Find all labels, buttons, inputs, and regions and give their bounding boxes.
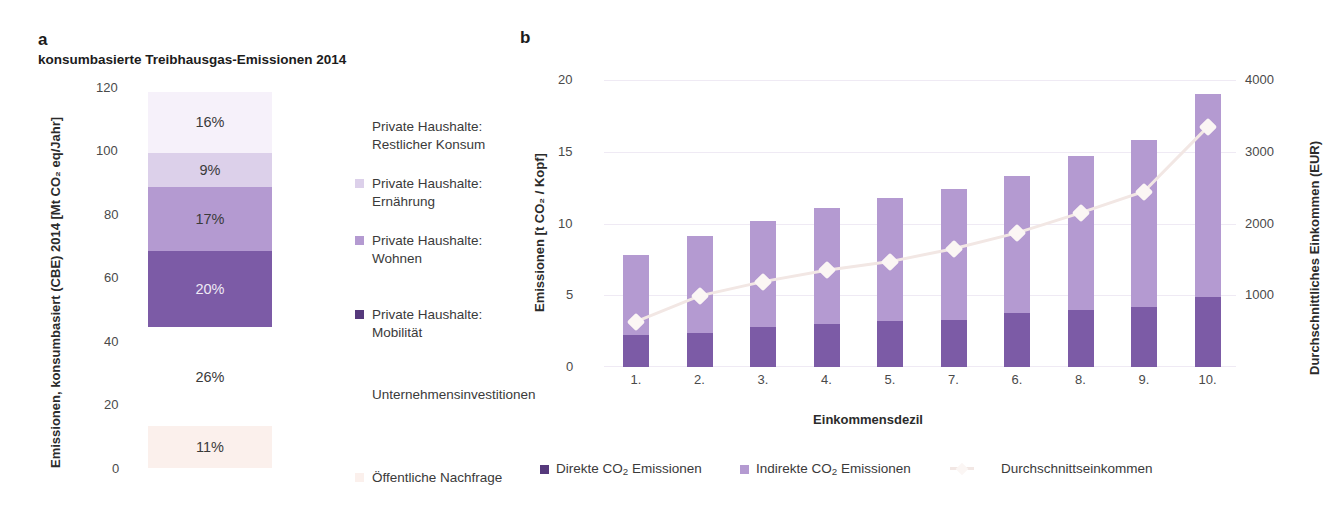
legend-item-direkte-co2[interactable]: Direkte CO2 Emissionen (540, 460, 702, 479)
legend-line-marker-icon (950, 467, 974, 470)
y-tick-a-80: 80 (104, 207, 118, 222)
y-tick-b-5: 5 (566, 287, 573, 302)
panel-a-plot-area: 16% 9% 17% 20% 26% 11% (148, 88, 272, 468)
stack-segment-oeffentliche-nachfrage: 11% (148, 426, 272, 468)
y-tick-a-100: 100 (96, 143, 118, 158)
stack-segment-mobilitaet: 20% (148, 251, 272, 327)
y2-tick-b-3000: 3000 (1245, 144, 1274, 159)
y-tick-b-0: 0 (566, 359, 573, 374)
legend-label-direkte-co2: Direkte CO2 Emissionen (556, 460, 702, 479)
legend-swatch-restlicher-konsum-icon (355, 122, 364, 131)
legend-item-indirekte-co2[interactable]: Indirekte CO2 Emissionen (740, 460, 911, 479)
legend-swatch-wohnen-icon (355, 236, 364, 245)
x-tick-decile-8: 8. (1075, 372, 1086, 387)
x-tick-decile-5: 5. (885, 372, 896, 387)
legend-item-wohnen[interactable]: Private Haushalte: Wohnen (355, 232, 482, 268)
y-tick-b-10: 10 (558, 216, 572, 231)
legend-label-mobilitaet: Private Haushalte: Mobilität (372, 306, 482, 342)
panel-a: a konsumbasierte Treibhausgas-Emissionen… (0, 0, 520, 508)
x-tick-decile-7: 7. (948, 372, 959, 387)
x-tick-decile-6: 6. (1012, 372, 1023, 387)
y-tick-a-20: 20 (104, 397, 118, 412)
y-tick-b-15: 15 (558, 144, 572, 159)
y-tick-a-40: 40 (104, 334, 118, 349)
income-line-path (636, 127, 1208, 322)
y-tick-a-120: 120 (96, 80, 118, 95)
panel-b-plot-area: 1. 2. 3. 4. 5. 7. 6. 8. 9. 10. (604, 80, 1236, 367)
legend-label-wohnen: Private Haushalte: Wohnen (372, 232, 482, 268)
stack-segment-ernaehrung: 9% (148, 153, 272, 187)
y2-tick-b-1000: 1000 (1245, 287, 1274, 302)
y-tick-a-60: 60 (104, 270, 118, 285)
panel-a-subtitle: konsumbasierte Treibhausgas-Emissionen 2… (38, 52, 346, 67)
x-tick-decile-10: 10. (1198, 372, 1216, 387)
legend-swatch-direkte-co2-icon (540, 465, 549, 474)
x-tick-decile-2: 2. (694, 372, 705, 387)
stack-segment-wohnen: 17% (148, 187, 272, 252)
y-tick-b-20: 20 (558, 72, 572, 87)
legend-swatch-oeffentliche-nachfrage-icon (355, 473, 364, 482)
legend-label-restlicher-konsum: Private Haushalte: Restlicher Konsum (372, 118, 485, 154)
panel-a-letter: a (38, 30, 47, 50)
stack-segment-restlicher-konsum: 16% (148, 92, 272, 153)
y2-tick-b-4000: 4000 (1245, 72, 1274, 87)
legend-item-durchschnittseinkommen[interactable]: Durchschnittseinkommen (950, 460, 1153, 478)
legend-label-indirekte-co2: Indirekte CO2 Emissionen (756, 460, 911, 479)
legend-item-restlicher-konsum[interactable]: Private Haushalte: Restlicher Konsum (355, 118, 485, 154)
panel-b-y-axis-title: Emissionen [t CO₂ / Kopf] (532, 153, 547, 312)
x-tick-decile-4: 4. (821, 372, 832, 387)
panel-b-y2-axis-title: Durchschnittliches Einkommen (EUR) (1307, 141, 1322, 375)
panel-a-y-axis-title: Emissionen, konsumbasiert (CBE) 2014 [Mt… (48, 117, 63, 468)
legend-swatch-mobilitaet-icon (355, 310, 364, 319)
income-line-chart (604, 80, 1236, 367)
x-tick-decile-3: 3. (758, 372, 769, 387)
y2-tick-b-2000: 2000 (1245, 216, 1274, 231)
panel-b-letter: b (520, 28, 530, 48)
panel-b-x-axis-title: Einkommensdezil (813, 412, 923, 427)
legend-swatch-indirekte-co2-icon (740, 465, 749, 474)
legend-label-oeffentliche-nachfrage: Öffentliche Nachfrage (372, 469, 502, 487)
legend-swatch-ernaehrung-icon (355, 179, 364, 188)
legend-item-oeffentliche-nachfrage[interactable]: Öffentliche Nachfrage (355, 469, 502, 487)
legend-label-ernaehrung: Private Haushalte: Ernährung (372, 175, 482, 211)
y-tick-a-0: 0 (112, 461, 119, 476)
legend-item-ernaehrung[interactable]: Private Haushalte: Ernährung (355, 175, 482, 211)
legend-swatch-unternehmensinvestitionen-icon (355, 390, 364, 399)
x-tick-decile-9: 9. (1139, 372, 1150, 387)
legend-item-mobilitaet[interactable]: Private Haushalte: Mobilität (355, 306, 482, 342)
panel-b: b Emissionen [t CO₂ / Kopf] Durchschnitt… (500, 0, 1340, 508)
x-tick-decile-1: 1. (631, 372, 642, 387)
stack-segment-unternehmensinvestitionen: 26% (148, 327, 272, 426)
legend-label-durchschnittseinkommen: Durchschnittseinkommen (1001, 460, 1153, 478)
